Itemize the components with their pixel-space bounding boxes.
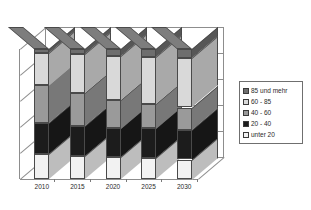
legend-swatch-icon xyxy=(243,121,249,127)
x-axis-label: 2030 xyxy=(169,183,199,190)
x-axis-label: 2010 xyxy=(27,183,57,190)
legend-item[interactable]: 85 und mehr xyxy=(243,85,299,96)
bar-segment-front xyxy=(177,160,192,180)
x-tick xyxy=(126,179,127,182)
legend-swatch-icon xyxy=(243,132,249,138)
chart-legend: 85 und mehr60 - 8540 - 6020 - 40unter 20 xyxy=(239,81,303,144)
legend-item[interactable]: 40 - 60 xyxy=(243,107,299,118)
x-tick xyxy=(197,179,198,182)
bar-segment-front xyxy=(177,58,192,107)
plot-area xyxy=(16,11,228,193)
legend-item[interactable]: 60 - 85 xyxy=(243,96,299,107)
legend-swatch-icon xyxy=(243,88,249,94)
legend-swatch-icon xyxy=(243,110,249,116)
bar-segment-top xyxy=(151,27,192,49)
x-tick xyxy=(54,179,55,182)
x-axis-label: 2020 xyxy=(98,183,128,190)
legend-label: 85 und mehr xyxy=(251,87,288,95)
legend-label: 40 - 60 xyxy=(251,109,271,117)
legend-item[interactable]: 20 - 40 xyxy=(243,118,299,129)
bar-segment-front xyxy=(177,108,192,130)
legend-label: unter 20 xyxy=(251,131,275,139)
x-tick xyxy=(161,179,162,182)
legend-swatch-icon xyxy=(243,99,249,105)
bar-segment-front xyxy=(177,49,192,58)
x-tick xyxy=(90,179,91,182)
chart-figure: 20102015202020252030 85 und mehr60 - 854… xyxy=(0,0,311,210)
legend-label: 60 - 85 xyxy=(251,98,271,106)
x-axis-label: 2025 xyxy=(134,183,164,190)
bar-3d xyxy=(16,11,228,193)
x-axis-label: 2015 xyxy=(62,183,92,190)
legend-item[interactable]: unter 20 xyxy=(243,129,299,140)
bar-segment-front xyxy=(177,130,192,160)
legend-label: 20 - 40 xyxy=(251,120,271,128)
